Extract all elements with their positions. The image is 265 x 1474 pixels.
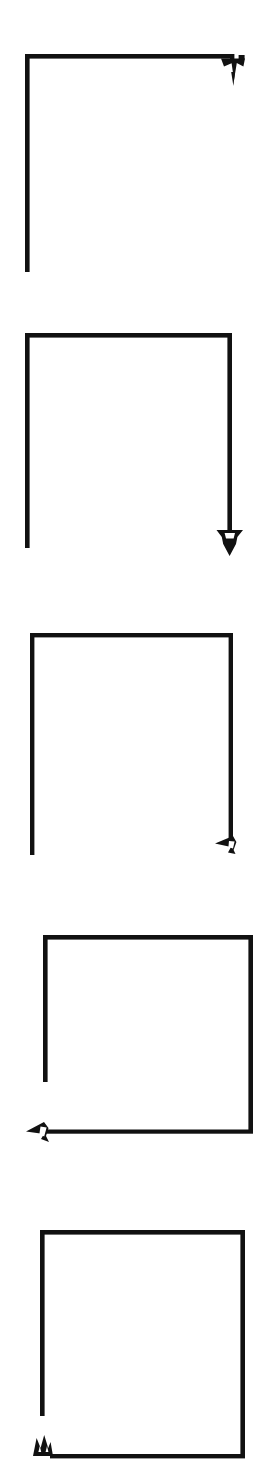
panel-1-canvas [0, 0, 265, 290]
stroke-left-vertical [25, 54, 30, 272]
diagram-panel-2 [0, 290, 265, 580]
stroke-right-vertical [227, 333, 232, 530]
panel-2-canvas [0, 290, 265, 580]
stroke-left-vertical [43, 935, 48, 1082]
panel-5-canvas [0, 1180, 265, 1474]
diagram-panel-1 [0, 0, 265, 290]
panel-3-canvas [0, 580, 265, 880]
diagram-panel-3 [0, 580, 265, 880]
arrowhead-down-icon [221, 55, 245, 86]
diagram-panel-5 [0, 1180, 265, 1474]
stroke-top-horizontal [40, 1230, 245, 1235]
arrowhead-up-icon [33, 1435, 53, 1456]
figure-sheet [0, 0, 265, 1474]
stroke-left-vertical [30, 633, 34, 855]
stroke-left-vertical [25, 333, 30, 548]
stroke-top-horizontal [43, 935, 253, 940]
arrowhead-left-icon [215, 836, 236, 854]
stroke-bottom-horizontal [46, 1130, 253, 1134]
panel-4-canvas [0, 880, 265, 1180]
stroke-top-horizontal [25, 54, 231, 59]
stroke-bottom-horizontal [50, 1454, 245, 1458]
stroke-right-vertical [229, 633, 233, 838]
stroke-top-horizontal [25, 333, 232, 338]
stroke-left-vertical [40, 1230, 45, 1416]
stroke-top-horizontal [30, 633, 233, 637]
diagram-panel-4 [0, 880, 265, 1180]
stroke-right-vertical [240, 1230, 245, 1458]
arrowhead-down-icon [217, 530, 244, 556]
stroke-right-vertical [248, 935, 253, 1132]
arrowhead-left-icon [26, 1122, 49, 1142]
